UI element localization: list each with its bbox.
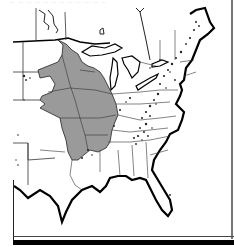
lake-michigan [110, 58, 118, 90]
lake-huron [122, 56, 140, 78]
bottom-rule-thin [13, 236, 234, 237]
shaded-region [38, 40, 118, 160]
lake-superior [82, 44, 122, 56]
lake-ontario [152, 60, 168, 67]
eastern-us-map [0, 0, 234, 247]
lake-erie [136, 74, 158, 90]
bottom-rule-thick [13, 240, 234, 245]
right-frame-border [231, 0, 233, 239]
